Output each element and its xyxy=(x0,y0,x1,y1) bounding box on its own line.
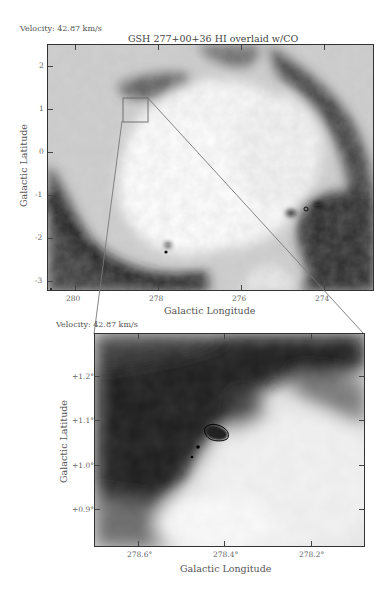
top-x-tick-278: 278 xyxy=(149,294,163,303)
top-x-tick-274: 274 xyxy=(315,294,329,303)
bottom-x-tick-278-4: 278.4° xyxy=(213,550,238,559)
bottom-x-tick-278-2: 278.2° xyxy=(299,550,324,559)
top-x-tick-280: 280 xyxy=(66,294,80,303)
top-title: GSH 277+00+36 HI overlaid w/CO xyxy=(128,33,298,44)
bottom-velocity-label: Velocity: 42.87 km/s xyxy=(56,320,138,329)
top-y-tick-minus3: -3 xyxy=(35,276,42,285)
bottom-xlabel: Galactic Longitude xyxy=(180,563,271,574)
top-xlabel: Galactic Longitude xyxy=(164,305,255,316)
top-y-tick-minus2: -2 xyxy=(35,233,42,242)
bottom-x-tick-278-6: 278.6° xyxy=(127,550,152,559)
bottom-y-tick-1-0: +1.0° xyxy=(72,461,94,470)
bottom-y-tick-1-1: +1.1° xyxy=(72,416,94,425)
top-y-tick-1: 1 xyxy=(39,104,44,113)
top-y-tick-0: 0 xyxy=(39,147,44,156)
top-hi-map xyxy=(47,44,374,291)
bottom-ylabel: Galactic Latitude xyxy=(58,397,69,487)
top-ylabel: Galactic Latitude xyxy=(18,121,29,211)
bottom-map-image xyxy=(95,334,365,547)
top-velocity-label: Velocity: 42.87 km/s xyxy=(20,24,102,33)
bottom-y-tick-0-9: +0.9° xyxy=(72,505,94,514)
top-y-tick-2: 2 xyxy=(39,61,44,70)
top-y-tick-minus1: -1 xyxy=(35,190,42,199)
top-x-tick-276: 276 xyxy=(232,294,246,303)
bottom-y-tick-1-2: +1.2° xyxy=(72,372,94,381)
bottom-zoom-map xyxy=(94,333,365,547)
top-map-image xyxy=(48,45,374,291)
